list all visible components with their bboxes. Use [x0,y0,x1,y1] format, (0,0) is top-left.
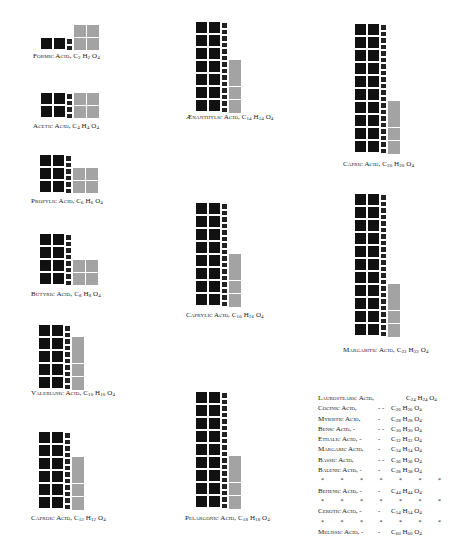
leader-dashes: - [378,444,380,454]
hydrogen-square [381,90,386,95]
carbon-square [196,405,207,416]
hydrogen-square [222,237,227,242]
hydrogen-square [222,465,227,470]
hydrogen-square [65,359,70,364]
oxygen-square [72,377,84,390]
carbon-square [53,181,64,192]
hydrogen-count: 2 [88,55,91,60]
acid-table: Laurostearic Acid,C24 H24 O4Cocinic Acid… [318,393,453,537]
hydrogen-square [67,107,72,112]
hydrogen-square [222,458,227,463]
carbon-count: 18 [243,517,248,522]
carbon-square [52,364,63,375]
carbon-square [209,100,220,111]
carbon-square [368,220,379,231]
leader-dashes: - [378,506,380,516]
figure-label-margaritic: Margaritic Acid, C22 H22 O4 [343,346,429,354]
hydrogen-square [222,263,227,268]
carbon-square [39,445,50,456]
acid-name: Butyric Acid, [31,290,72,298]
carbon-square [355,220,366,231]
leader-dashes: - - [378,455,384,465]
oxygen-square [73,181,85,193]
hydrogen-square [222,497,227,502]
carbon-square [196,74,207,85]
oxygen-square [229,483,241,496]
hydrogen-square [222,36,227,41]
oxygen-count: 4 [98,293,101,298]
figure-label-propylic: Propylic Acid, C6 H6 O4 [31,197,103,205]
star-mark: * [341,517,344,527]
hydrogen-square [222,256,227,261]
oxygen-count: 4 [112,392,115,397]
oxygen-square [229,496,241,509]
hydrogen-count: 10 [100,392,105,397]
oxygen-square [72,457,84,470]
hydrogen-square [222,432,227,437]
hydrogen-square [381,103,386,108]
hydrogen-square [66,281,71,286]
oxygen-square [388,311,400,324]
acid-name: Margaritic Acid, [343,346,395,354]
figure-label-aenanthylic: Ænanthylic Acid, C14 H14 O4 [186,113,273,121]
hydrogen-square [67,46,72,51]
hydrogen-square [65,365,70,370]
oxygen-count: 4 [411,163,414,168]
hydrogen-square [65,498,70,503]
hydrogen-square [65,352,70,357]
acid-name: Balenic Acid, - [318,465,362,475]
oxygen-count: 4 [96,125,99,130]
carbon-square [196,22,207,33]
table-row: Laurostearic Acid,C24 H24 O4 [318,393,453,403]
hydrogen-square [381,38,386,43]
oxygen-square [229,60,241,73]
hydrogen-square [66,176,71,181]
oxygen-count: 4 [97,55,100,60]
oxygen-square [72,470,84,483]
acid-name: Laurostearic Acid, [318,393,374,403]
oxygen-square [388,284,400,297]
hydrogen-square [66,182,71,187]
hydrogen-square [222,108,227,113]
star-mark: * [321,496,324,506]
acid-name: Formic Acid, [33,52,71,60]
carbon-square [39,471,50,482]
carbon-square [209,87,220,98]
carbon-square [196,48,207,59]
hydrogen-square [381,293,386,298]
hydrogen-square [381,319,386,324]
hydrogen-square [222,400,227,405]
carbon-square [368,311,379,322]
oxygen-square [74,38,86,50]
acid-name: Propylic Acid, [31,197,74,205]
star-mark: * [341,496,344,506]
star-mark: * [399,496,402,506]
carbon-square [368,207,379,218]
leader-dashes: - [378,414,380,424]
oxygen-square [229,469,241,482]
hydrogen-square [381,234,386,239]
hydrogen-square [222,478,227,483]
hydrogen-square [65,440,70,445]
hydrogen-square [222,504,227,509]
carbon-square [368,102,379,113]
carbon-square [196,100,207,111]
carbon-square [368,324,379,335]
carbon-square [52,445,63,456]
hydrogen-square [222,211,227,216]
carbon-square [196,470,207,481]
hydrogen-count: 20 [399,163,404,168]
oxygen-square [229,254,241,267]
oxygen-square [74,25,86,37]
carbon-square [209,216,220,227]
carbon-square [355,246,366,257]
hydrogen-square [222,439,227,444]
oxygen-square [86,181,98,193]
hydrogen-square [381,32,386,37]
carbon-count: 8 [79,293,82,298]
hydrogen-square [65,378,70,383]
oxygen-square [388,128,400,141]
oxygen-square [86,260,98,272]
acid-name: Ænanthylic Acid, [186,113,240,121]
carbon-square [209,268,220,279]
